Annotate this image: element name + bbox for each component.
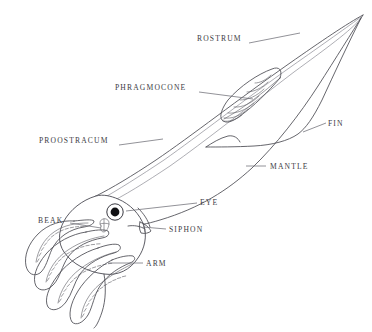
- eye-pupil: [111, 208, 120, 217]
- head-outline: [60, 195, 151, 274]
- label-siphon: SIPHON: [169, 226, 203, 234]
- label-fin: FIN: [328, 120, 344, 128]
- squid-illustration: [0, 0, 372, 332]
- leader-fin: [303, 123, 326, 132]
- squid-anatomy-diagram: ROSTRUM PHRAGMOCONE PROOSTRACUM FIN MANT…: [0, 0, 372, 332]
- leader-siphon: [143, 227, 166, 229]
- arm-5: [94, 274, 105, 328]
- label-proostracum: PROOSTRACUM: [39, 137, 109, 145]
- label-beak: BEAK: [38, 217, 63, 225]
- gladius-proostracum: [96, 17, 361, 205]
- label-rostrum: ROSTRUM: [197, 35, 242, 43]
- label-mantle: MANTLE: [270, 163, 309, 171]
- leader-eye: [126, 203, 197, 211]
- label-eye: EYE: [200, 199, 218, 207]
- leader-proostracum: [119, 139, 163, 145]
- mantle-outline: [96, 15, 363, 226]
- label-arm: ARM: [146, 260, 167, 268]
- label-phragmocone: PHRAGMOCONE: [115, 84, 186, 92]
- leader-rostrum: [249, 33, 300, 43]
- eye-group: [107, 204, 123, 220]
